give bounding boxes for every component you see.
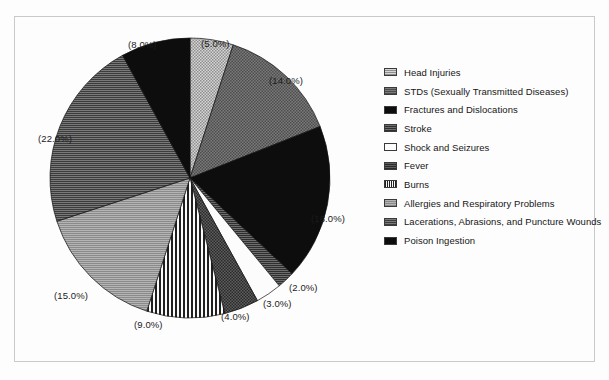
legend-item-label: Fever [404,160,429,171]
pct-label-allergies: (15.0%) [54,290,88,301]
legend-item-label: Head Injuries [404,67,461,78]
legend-item-label: Shock and Seizures [404,142,489,153]
legend-item-label: Stroke [404,123,432,134]
legend-item[interactable]: Stroke [384,119,594,138]
pct-label-fever: (4.0%) [221,311,250,322]
legend-swatch-icon [384,218,397,226]
pct-label-shock-seizures: (3.0%) [263,298,292,309]
pct-label-poison-ingestion: (8.0%) [128,39,157,50]
legend-swatch-icon [384,106,397,114]
pct-label-burns: (9.0%) [134,319,163,330]
chart-legend: Head InjuriesSTDs (Sexually Transmitted … [384,63,594,250]
legend-item[interactable]: Fractures and Dislocations [384,100,594,119]
legend-item[interactable]: Lacerations, Abrasions, and Puncture Wou… [384,213,594,232]
legend-swatch-icon [384,143,397,151]
legend-item[interactable]: Fever [384,156,594,175]
pct-label-stds: (14.0%) [269,75,303,86]
legend-swatch-icon [384,162,397,170]
pct-label-stroke: (2.0%) [289,282,318,293]
legend-item-label: Poison Ingestion [404,235,475,246]
legend-swatch-icon [384,124,397,132]
legend-swatch-icon [384,87,397,95]
chart-frame: (8.0%) (5.0%) (14.0%) (18.0%) (2.0%) (3.… [14,16,595,362]
legend-item[interactable]: Head Injuries [384,63,594,82]
legend-item[interactable]: Shock and Seizures [384,138,594,157]
legend-item[interactable]: STDs (Sexually Transmitted Diseases) [384,82,594,101]
legend-item-label: Fractures and Dislocations [404,104,518,115]
legend-item-label: STDs (Sexually Transmitted Diseases) [404,86,568,97]
legend-swatch-icon [384,199,397,207]
legend-swatch-icon [384,237,397,245]
legend-item-label: Burns [404,179,429,190]
legend-item-label: Lacerations, Abrasions, and Puncture Wou… [404,216,601,227]
legend-item[interactable]: Burns [384,175,594,194]
legend-item[interactable]: Poison Ingestion [384,231,594,250]
legend-item[interactable]: Allergies and Respiratory Problems [384,194,594,213]
pct-label-lacerations: (22.0%) [38,133,72,144]
legend-swatch-icon [384,68,397,76]
pie-chart-area: (8.0%) (5.0%) (14.0%) (18.0%) (2.0%) (3.… [15,17,594,361]
pct-label-head-injuries: (5.0%) [201,38,230,49]
pct-label-fractures: (18.0%) [311,213,345,224]
legend-swatch-icon [384,180,397,188]
legend-item-label: Allergies and Respiratory Problems [404,198,555,209]
